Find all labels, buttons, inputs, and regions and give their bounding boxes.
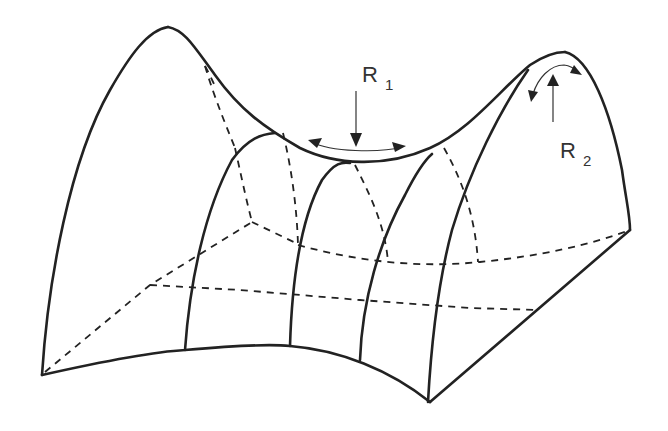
r1-arc-left-head-icon — [308, 138, 322, 148]
r1-subscript: 1 — [385, 76, 393, 93]
r1-arrow-head-icon — [350, 133, 362, 147]
r2-arc-right-head-icon — [570, 65, 582, 75]
svg-text:R 1: R 1 — [362, 62, 393, 93]
svg-text:R 2: R 2 — [560, 138, 591, 169]
visible-edges — [42, 27, 630, 402]
r2-label: R — [560, 138, 576, 163]
saddle-surface-diagram: R 1 R 2 — [0, 0, 668, 431]
r2-arc-left-head-icon — [528, 90, 538, 102]
r2-arrow-head-icon — [547, 74, 559, 86]
r2-annotation: R 2 — [528, 65, 591, 169]
hidden-edges — [45, 66, 630, 372]
r2-subscript: 2 — [583, 152, 591, 169]
r1-label: R — [362, 62, 378, 87]
r1-arc-right-head-icon — [392, 142, 406, 152]
r1-annotation: R 1 — [308, 62, 406, 152]
